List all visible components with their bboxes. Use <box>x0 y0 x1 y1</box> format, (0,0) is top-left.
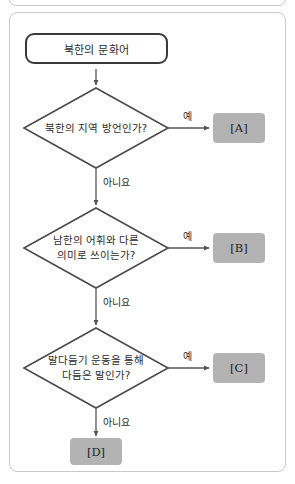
start-node: 북한의 문화어 <box>25 33 168 64</box>
edge-label-d1-no: 아니요 <box>103 177 130 188</box>
edge-label-d2-no: 아니요 <box>103 297 130 308</box>
terminal-node-d-label: [D] <box>87 445 105 459</box>
terminal-node-c: [C] <box>213 353 265 383</box>
edge-label-d3-no: 아니요 <box>103 417 130 428</box>
edge-label-d3-yes: 예 <box>183 351 192 362</box>
edge-label-d2-yes: 예 <box>183 231 192 242</box>
terminal-node-a-label: [A] <box>230 121 247 135</box>
terminal-node-d: [D] <box>70 438 122 465</box>
edge-label-d1-yes: 예 <box>183 111 192 122</box>
terminal-node-b-label: [B] <box>230 241 247 255</box>
decision-diamond-2 <box>24 208 168 288</box>
terminal-node-b: [B] <box>213 233 265 263</box>
decision-diamond-1 <box>24 88 168 168</box>
start-node-label: 북한의 문화어 <box>64 41 129 57</box>
decision-diamond-3 <box>24 328 168 408</box>
terminal-node-c-label: [C] <box>230 361 248 375</box>
terminal-node-a: [A] <box>213 113 265 143</box>
